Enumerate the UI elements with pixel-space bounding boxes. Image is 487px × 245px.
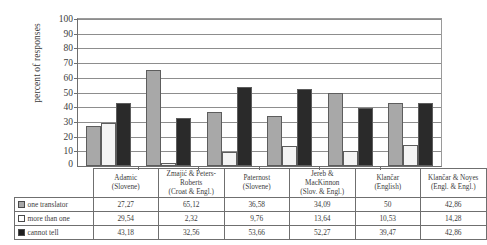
table-cell-value: 43,18 <box>93 226 159 240</box>
table-column-header-line: Jereb & <box>292 170 353 179</box>
data-table: Adamic(Slovene)Zmajić & Peters-Roberts(C… <box>14 168 487 240</box>
table-cell-value: 32,56 <box>159 226 225 240</box>
table-column-header: Zmajić & Peters-Roberts(Croat & Engl.) <box>159 169 225 198</box>
bar <box>343 151 358 166</box>
table-column-header-line: Roberts <box>161 179 222 188</box>
table-column-header-line: Klančar & Noyes <box>423 174 484 183</box>
y-tick-label: 30 <box>64 117 79 127</box>
table-cell-value: 27,27 <box>93 198 159 212</box>
table-column-header-line: (Engl. & Engl.) <box>423 183 484 192</box>
table-column-header-line: Paternost <box>227 174 288 183</box>
table-cell-value: 10,53 <box>355 212 421 226</box>
y-tick-label: 100 <box>59 14 78 24</box>
y-tick-label: 80 <box>64 43 79 53</box>
y-tick-label: 20 <box>64 132 79 142</box>
y-tick-label: 50 <box>64 88 79 98</box>
bar <box>222 152 237 166</box>
bar <box>101 123 116 166</box>
bar <box>207 112 222 166</box>
bar <box>403 145 418 166</box>
y-tick-label: 70 <box>64 58 79 68</box>
table-header-row: Adamic(Slovene)Zmajić & Peters-Roberts(C… <box>15 169 487 198</box>
table-column-header: Adamic(Slovene) <box>93 169 159 198</box>
table-cell-value: 9,76 <box>224 212 290 226</box>
table-cell-value: 65,12 <box>159 198 225 212</box>
legend-entry: more than one <box>15 212 94 226</box>
legend-swatch-icon <box>18 201 25 208</box>
legend-entry: one translator <box>15 198 94 212</box>
bar-group <box>320 19 381 166</box>
y-axis-title: percent of responses <box>32 0 42 138</box>
legend-swatch-icon <box>18 229 25 236</box>
table-column-header: Jereb &MacKinnon(Slov. & Engl.) <box>290 169 356 198</box>
table-column-header-line: MacKinnon <box>292 179 353 188</box>
table-column-header-line: (Slovene) <box>96 183 157 192</box>
bar <box>267 116 282 166</box>
table-row: one translator27,2765,1236,5834,095042,8… <box>15 198 487 212</box>
bar-group <box>260 19 321 166</box>
y-tick-label: 60 <box>64 73 79 83</box>
table-column-header: Klančar & Noyes(Engl. & Engl.) <box>421 169 487 198</box>
table-column-header: Klančar(English) <box>355 169 421 198</box>
bar-group <box>78 19 139 166</box>
legend-label: more than one <box>28 214 70 223</box>
table-cell-value: 42,86 <box>421 226 487 240</box>
bar <box>237 87 252 166</box>
bar-groups <box>78 19 441 166</box>
bar-group <box>381 19 442 166</box>
bar <box>328 93 343 167</box>
table-cell-value: 2,32 <box>159 212 225 226</box>
table-body: one translator27,2765,1236,5834,095042,8… <box>15 198 487 240</box>
table-cell-value: 13,64 <box>290 212 356 226</box>
y-tick-label: 40 <box>64 102 79 112</box>
table-column-header-line: (Slovene) <box>227 183 288 192</box>
legend-entry: cannot tell <box>15 226 94 240</box>
table-column-header-line: Zmajić & Peters- <box>161 170 222 179</box>
table-cell-value: 42,86 <box>421 198 487 212</box>
y-tick-label: 90 <box>64 29 79 39</box>
table-cell-value: 34,09 <box>290 198 356 212</box>
table-column-header-line: (English) <box>358 183 419 192</box>
bar <box>388 103 403 166</box>
table-row: more than one29,542,329,7613,6410,5314,2… <box>15 212 487 226</box>
bar <box>116 103 131 166</box>
table-cell-value: 36,58 <box>224 198 290 212</box>
bar-group <box>139 19 200 166</box>
table-column-header-line: (Croat & Engl.) <box>161 188 222 197</box>
legend-swatch-icon <box>18 215 25 222</box>
table-column-header: Paternost(Slovene) <box>224 169 290 198</box>
table-cell-value: 50 <box>355 198 421 212</box>
table-cell-value: 39,47 <box>355 226 421 240</box>
table-cell-value: 29,54 <box>93 212 159 226</box>
table-cell-value: 14,28 <box>421 212 487 226</box>
table-cell-value: 53,66 <box>224 226 290 240</box>
bar-group <box>199 19 260 166</box>
table-corner-cell <box>15 169 94 198</box>
data-table-wrapper: Adamic(Slovene)Zmajić & Peters-Roberts(C… <box>14 168 446 240</box>
legend-label: one translator <box>28 200 68 209</box>
bar <box>297 89 312 166</box>
bar <box>358 108 373 166</box>
table-column-header-line: (Slov. & Engl.) <box>292 188 353 197</box>
table-cell-value: 52,27 <box>290 226 356 240</box>
bar <box>282 146 297 166</box>
table-row: cannot tell43,1832,5653,6652,2739,4742,8… <box>15 226 487 240</box>
table-column-header-line: Adamic <box>96 174 157 183</box>
y-tick-label: 10 <box>64 146 79 156</box>
plot-area: 100908070605040302010 <box>77 18 442 167</box>
bar <box>161 163 176 166</box>
table-column-header-line: Klančar <box>358 174 419 183</box>
legend-label: cannot tell <box>28 228 59 237</box>
bar <box>146 70 161 166</box>
table-head: Adamic(Slovene)Zmajić & Peters-Roberts(C… <box>15 169 487 198</box>
bar <box>176 118 191 166</box>
bar <box>418 103 433 166</box>
bar <box>86 126 101 166</box>
